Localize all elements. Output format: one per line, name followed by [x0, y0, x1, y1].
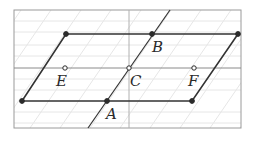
point-p1-marker [64, 32, 69, 37]
grid-line-diagonal [180, 10, 255, 128]
grid-line-diagonal [0, 10, 81, 128]
grid-line-diagonal [0, 10, 21, 128]
grid-line-diagonal [150, 10, 231, 128]
point-p3-marker [20, 99, 25, 104]
label-F: F [187, 72, 199, 90]
point-c-marker [127, 66, 131, 70]
point-f-marker [192, 66, 196, 70]
grid-line-diagonal [240, 10, 255, 128]
point-p2-marker [236, 32, 241, 37]
label-A: A [104, 105, 117, 123]
label-E: E [55, 72, 67, 90]
point-b-marker [150, 32, 155, 37]
label-C: C [130, 72, 142, 90]
grid-line-diagonal [120, 10, 201, 128]
grid-line-diagonal [210, 10, 255, 128]
point-a-marker [105, 99, 110, 104]
geometry-diagram: B A C E F [0, 0, 255, 143]
point-e-marker [63, 66, 67, 70]
point-p4-marker [190, 99, 195, 104]
label-B: B [151, 38, 163, 56]
